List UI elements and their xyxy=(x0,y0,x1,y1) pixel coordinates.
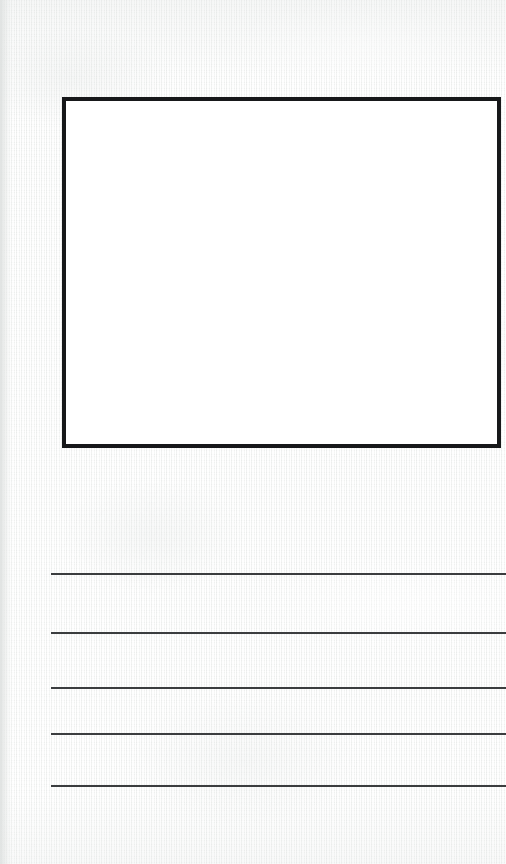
worksheet-page xyxy=(0,0,506,864)
drawing-frame[interactable] xyxy=(62,97,501,448)
writing-line[interactable] xyxy=(51,632,506,634)
writing-line[interactable] xyxy=(51,733,506,735)
writing-line[interactable] xyxy=(51,573,506,575)
left-margin-shade xyxy=(0,0,13,864)
writing-line[interactable] xyxy=(51,687,506,689)
drawing-area[interactable] xyxy=(66,101,497,444)
writing-line[interactable] xyxy=(51,785,506,787)
